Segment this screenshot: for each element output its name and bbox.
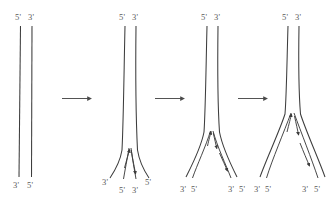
panel-4-daughter-left bbox=[267, 113, 292, 178]
panel-4-strands bbox=[260, 26, 325, 178]
panel-2-parent-right bbox=[136, 26, 149, 178]
panel-3-strands bbox=[186, 26, 237, 178]
panel-3-synthesis-arrow-down-2 bbox=[220, 153, 228, 171]
panel-4-parent-right bbox=[299, 26, 325, 177]
panel-2-synthesis-arrow-up bbox=[125, 150, 130, 169]
panel-2-bottom-label-5prime-inner-left: 5' bbox=[119, 186, 125, 195]
panel-1-strand-right bbox=[32, 26, 33, 177]
panel-4-bottom-label-5prime-right: 5' bbox=[314, 185, 320, 194]
panel-4-top-label-5prime: 5' bbox=[282, 13, 288, 22]
panel-4-bottom-label-3prime-right: 3' bbox=[302, 185, 308, 194]
panel-3-top-label-5prime: 5' bbox=[201, 13, 207, 22]
panel-2-top-label-3prime: 3' bbox=[132, 13, 138, 22]
panel-2-synthesis-arrow-down bbox=[131, 150, 135, 174]
panel-4-bottom-label-5prime-left: 5' bbox=[265, 185, 271, 194]
panel-4-synthesis-arrow-down-2 bbox=[300, 143, 310, 166]
panel-3-daughter-left bbox=[193, 131, 211, 178]
panel-2-top-label-5prime: 5' bbox=[119, 13, 125, 22]
panel-2-bottom-label-5prime-outer-right: 5' bbox=[145, 178, 151, 187]
panel-2-parent-left bbox=[110, 26, 125, 178]
panel-1-strands bbox=[19, 26, 32, 177]
panel-3-bottom-label-3prime-left: 3' bbox=[180, 185, 186, 194]
panel-1-strand-left bbox=[19, 26, 21, 177]
panel-3-parent-right bbox=[218, 26, 237, 177]
panel-1-top-label-3prime: 3' bbox=[28, 13, 34, 22]
panel-3-bottom-label-5prime-right: 5' bbox=[239, 185, 245, 194]
panel-2-strands bbox=[110, 26, 149, 179]
panel-3-top-label-3prime: 3' bbox=[214, 13, 220, 22]
panel-4-top-label-3prime: 3' bbox=[295, 13, 301, 22]
panel-1-bottom-label-3prime: 3' bbox=[13, 181, 19, 190]
panel-3-bottom-label-3prime-right: 3' bbox=[228, 185, 234, 194]
dna-replication-fork-diagram: 5' 3' 3' 5' 5' 3' 3' 5' 3' 5' 5' 3' 3' 5… bbox=[0, 0, 329, 199]
panel-2-daughter-left bbox=[124, 148, 130, 179]
panel-2-bottom-label-3prime-outer-left: 3' bbox=[102, 178, 108, 187]
panel-4-parent-left bbox=[260, 26, 288, 177]
panel-3-bottom-label-5prime-left: 5' bbox=[191, 185, 197, 194]
panel-3-parent-left bbox=[186, 26, 207, 177]
panel-1-bottom-label-5prime: 5' bbox=[27, 181, 33, 190]
diagram-canvas bbox=[0, 0, 329, 199]
panel-4-bottom-label-3prime-left: 3' bbox=[254, 185, 260, 194]
panel-3-daughter-right bbox=[213, 131, 231, 178]
panel-4-daughter-right bbox=[294, 113, 318, 178]
panel-1-top-label-5prime: 5' bbox=[15, 13, 21, 22]
panel-2-bottom-label-3prime-inner-right: 3' bbox=[132, 186, 138, 195]
